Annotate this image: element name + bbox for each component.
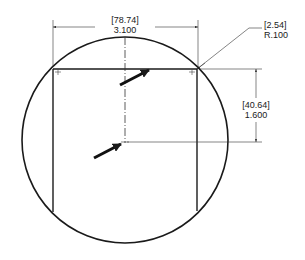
height-imperial: 1.600 — [236, 110, 276, 120]
radius-imperial: R.100 — [264, 30, 298, 40]
lower-arrow-icon — [94, 144, 121, 158]
height-dimension-label: [40.64] 1.600 — [236, 100, 276, 120]
radius-metric: [2.54] — [264, 20, 298, 30]
radius-dimension-label: [2.54] R.100 — [264, 20, 298, 40]
technical-drawing — [0, 0, 305, 260]
width-metric: [78.74] — [104, 15, 146, 25]
radius-leader — [197, 28, 262, 69]
upper-arrow-icon — [120, 70, 149, 85]
width-imperial: 3.100 — [104, 25, 146, 35]
height-metric: [40.64] — [236, 100, 276, 110]
width-dimension-label: [78.74] 3.100 — [104, 15, 146, 35]
